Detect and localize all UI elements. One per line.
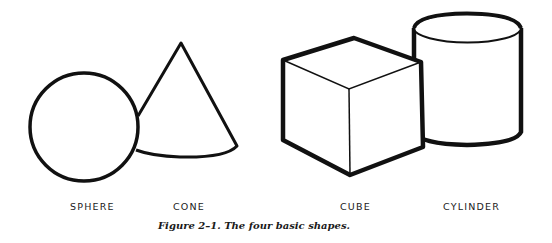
cube-shape bbox=[283, 38, 423, 175]
sphere-shape bbox=[30, 73, 138, 181]
cone-shape bbox=[136, 43, 237, 157]
cube-label: CUBE bbox=[340, 201, 371, 212]
cone-label: CONE bbox=[173, 201, 205, 212]
sphere-label: SPHERE bbox=[70, 201, 115, 212]
cylinder-shape bbox=[414, 14, 521, 146]
figure-caption: Figure 2–1. The four basic shapes. bbox=[158, 220, 350, 231]
cylinder-label: CYLINDER bbox=[443, 201, 500, 212]
